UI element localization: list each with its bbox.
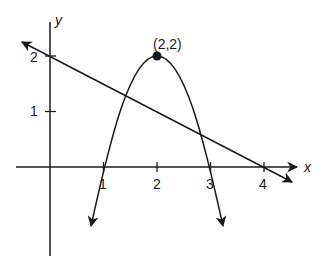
coordinate-plane: 1 2 3 4 1 2 x y (2,2)	[0, 0, 326, 266]
x-tick-label-4: 4	[259, 176, 267, 192]
parabola-curve	[91, 56, 223, 226]
vertex-label: (2,2)	[153, 36, 182, 52]
linear-function-line	[22, 42, 292, 182]
x-axis-label: x	[303, 159, 312, 175]
y-axis-label: y	[54, 12, 63, 28]
y-tick-label-2: 2	[30, 49, 38, 65]
vertex-point	[153, 52, 162, 61]
x-tick-label-2: 2	[153, 176, 161, 192]
y-tick-label-1: 1	[30, 103, 38, 119]
